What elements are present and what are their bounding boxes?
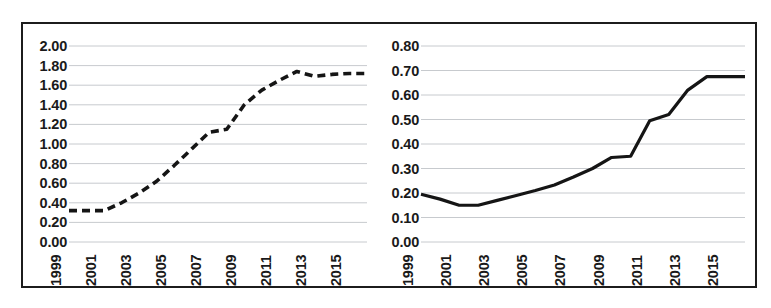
y-tick-label: 0.60 xyxy=(392,87,419,103)
x-tick-label: 2005 xyxy=(514,255,530,286)
y-tick-label: 0.10 xyxy=(392,210,419,226)
y-tick-label: 0.80 xyxy=(392,38,419,54)
x-tick-label: 1999 xyxy=(48,255,64,286)
x-tick-label: 2001 xyxy=(438,255,454,286)
plot-svg-left xyxy=(69,46,367,242)
y-tick-label: 1.60 xyxy=(40,77,67,93)
series-line xyxy=(421,77,745,206)
chart-panel-left: 2.001.801.601.401.201.000.800.600.400.20… xyxy=(23,24,375,286)
y-tick-label: 0.40 xyxy=(40,195,67,211)
x-tick-label: 2013 xyxy=(667,255,683,286)
series-line xyxy=(69,71,367,210)
y-tick-label: 1.00 xyxy=(40,136,67,152)
y-tick-label: 0.50 xyxy=(392,112,419,128)
x-tick-label: 2015 xyxy=(705,255,721,286)
x-tick-label: 2003 xyxy=(476,255,492,286)
x-tick-label: 2013 xyxy=(293,255,309,286)
y-tick-label: 1.80 xyxy=(40,58,67,74)
y-tick-label: 0.30 xyxy=(392,161,419,177)
chart-panel-right: 0.800.700.600.500.400.300.200.100.00 199… xyxy=(375,24,755,286)
x-tick-label: 1999 xyxy=(400,255,416,286)
y-tick-label: 0.60 xyxy=(40,175,67,191)
x-tick-label: 2003 xyxy=(118,255,134,286)
x-tick-label: 2015 xyxy=(328,255,344,286)
figure-frame: 2.001.801.601.401.201.000.800.600.400.20… xyxy=(21,22,757,288)
x-tick-label: 2007 xyxy=(552,255,568,286)
y-tick-label: 0.20 xyxy=(392,185,419,201)
x-tick-label: 2011 xyxy=(629,255,645,286)
y-tick-label: 0.40 xyxy=(392,136,419,152)
x-tick-label: 2007 xyxy=(188,255,204,286)
y-tick-label: 0.70 xyxy=(392,63,419,79)
plot-area-left xyxy=(69,46,367,242)
y-tick-label: 0.20 xyxy=(40,214,67,230)
plot-area-right xyxy=(421,46,745,242)
plot-svg-right xyxy=(421,46,745,242)
x-axis-left: 199920012003200520072009201120132015 xyxy=(23,246,375,286)
y-tick-label: 1.20 xyxy=(40,116,67,132)
y-tick-label: 1.40 xyxy=(40,97,67,113)
x-tick-label: 2001 xyxy=(83,255,99,286)
x-tick-label: 2005 xyxy=(153,255,169,286)
charts-row: 2.001.801.601.401.201.000.800.600.400.20… xyxy=(23,24,755,286)
x-tick-label: 2009 xyxy=(591,255,607,286)
y-tick-label: 0.80 xyxy=(40,156,67,172)
x-tick-label: 2011 xyxy=(258,255,274,286)
x-axis-right: 199920012003200520072009201120132015 xyxy=(375,246,755,286)
x-tick-label: 2009 xyxy=(223,255,239,286)
y-tick-label: 2.00 xyxy=(40,38,67,54)
